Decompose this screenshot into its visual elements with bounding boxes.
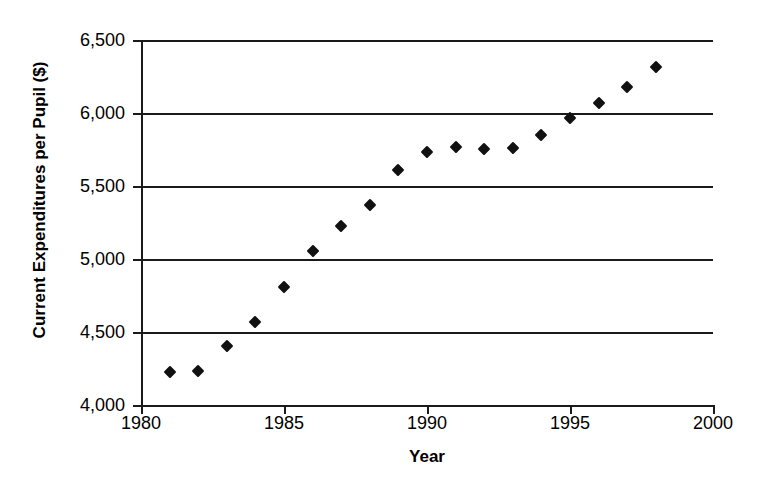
x-axis-title: Year — [141, 447, 713, 467]
chart-container: Current Expenditures per Pupil ($) 4,000… — [0, 0, 777, 490]
x-axis-ticks-group: 19801985199019952000 — [0, 0, 777, 490]
x-axis-tick-label: 2000 — [668, 414, 758, 432]
x-axis-tick-label: 1980 — [96, 414, 186, 432]
x-axis-tick-label: 1985 — [239, 414, 329, 432]
x-axis-tick-label: 1990 — [382, 414, 472, 432]
x-axis-tick-label: 1995 — [525, 414, 615, 432]
